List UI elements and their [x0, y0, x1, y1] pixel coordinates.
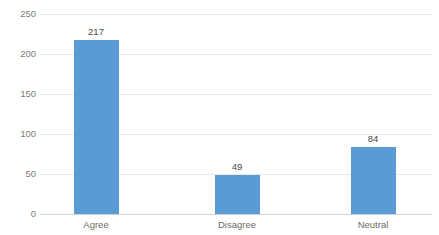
y-tick-200: 200: [2, 49, 36, 59]
x-tick-disagree: Disagree: [218, 220, 256, 230]
plot-area: [40, 14, 432, 214]
x-tick-agree: Agree: [83, 220, 108, 230]
y-tick-100: 100: [2, 129, 36, 139]
bar-neutral[interactable]: [351, 147, 396, 214]
y-tick-150: 150: [2, 89, 36, 99]
x-tick-neutral: Neutral: [358, 220, 389, 230]
bar-chart: 250 200 150 100 50 0 217 49 84 Agree Dis…: [0, 0, 439, 235]
y-tick-250: 250: [2, 9, 36, 19]
bar-agree[interactable]: [74, 40, 119, 214]
x-axis-line: [40, 214, 432, 215]
y-axis: 250 200 150 100 50 0: [0, 14, 36, 214]
bar-value-label-agree: 217: [88, 27, 104, 37]
y-tick-0: 0: [2, 209, 36, 219]
bar-disagree[interactable]: [215, 175, 260, 214]
bar-value-label-neutral: 84: [368, 134, 379, 144]
y-tick-50: 50: [2, 169, 36, 179]
gridline-250: [40, 14, 432, 15]
bar-value-label-disagree: 49: [232, 162, 243, 172]
